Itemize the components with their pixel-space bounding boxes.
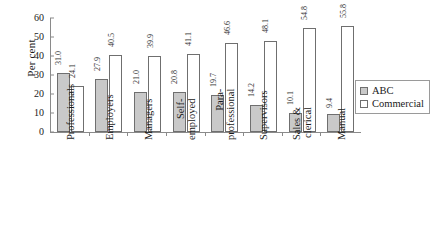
y-axis-ticks: 0102030405060 (26, 18, 50, 132)
x-axis-label-text: Supervisors (258, 90, 269, 140)
bar-value-label: 21.0 (133, 70, 141, 84)
x-axis-label-text: Para-professional (214, 89, 236, 140)
bar-value-label: 40.5 (108, 33, 116, 47)
x-axis-label-line1: Managers (143, 99, 154, 140)
chart-legend: ABC Commercial (355, 80, 430, 114)
y-tick-label-40: 40 (34, 51, 44, 61)
legend-swatch-abc (360, 87, 368, 95)
y-tick-label-60: 60 (34, 13, 44, 23)
x-axis-label-line2: clerical (302, 107, 313, 140)
x-axis-label-line1: Manual (336, 108, 347, 140)
y-tick-label-30: 30 (34, 70, 44, 80)
legend-item-commercial: Commercial (360, 97, 424, 110)
y-tick-label-0: 0 (39, 127, 44, 137)
x-axis-label-line2: employed (186, 99, 197, 140)
x-axis-label-line2: professional (225, 89, 236, 140)
bar-value-label: 20.8 (171, 70, 179, 84)
y-tick-label-20: 20 (34, 89, 44, 99)
x-axis-label-text: Managers (143, 99, 154, 140)
bar-value-label: 24.1 (69, 64, 77, 78)
x-axis-label: Supervisors (244, 136, 283, 242)
bar-value-label: 9.4 (326, 98, 334, 108)
bar-value-label: 54.8 (301, 6, 309, 20)
legend-label-abc: ABC (372, 84, 394, 97)
x-axis-label: Self-employed (167, 136, 206, 242)
x-axis-label-text: Employers (104, 95, 115, 141)
x-axis-label: Manual (321, 136, 360, 242)
bar-value-label: 55.8 (340, 4, 348, 18)
x-axis-label-line1: Para- (214, 89, 225, 140)
bar-groups: 31.024.127.940.521.039.920.841.119.746.6… (51, 18, 360, 132)
bar-value-label: 39.9 (147, 34, 155, 48)
bar-chart: Per cent 0102030405060 31.024.127.940.52… (0, 0, 441, 248)
x-axis-label: Sales &clerical (283, 136, 322, 242)
y-tick-label-50: 50 (34, 32, 44, 42)
x-axis-label-text: Manual (336, 108, 347, 140)
y-tick-label-10: 10 (34, 108, 44, 118)
x-axis-label: Employers (90, 136, 129, 242)
x-axis-label-text: Sales &clerical (291, 107, 313, 140)
x-axis-label-line1: Employers (104, 95, 115, 141)
x-axis-label-line1: Supervisors (258, 90, 269, 140)
legend-label-commercial: Commercial (372, 97, 424, 110)
x-axis-labels: ProfessionalsEmployersManagersSelf-emplo… (51, 136, 360, 242)
legend-swatch-commercial (360, 100, 368, 108)
x-axis-line (50, 132, 361, 133)
x-axis-label-text: Self-employed (175, 99, 197, 140)
x-axis-label-text: Professionals (65, 84, 76, 140)
bar-value-label: 46.6 (224, 21, 232, 35)
x-axis-label: Para-professional (206, 136, 245, 242)
bar-value-label: 27.9 (94, 57, 102, 71)
plot-area: 31.024.127.940.521.039.920.841.119.746.6… (50, 18, 360, 132)
bar-value-label: 41.1 (185, 32, 193, 46)
legend-item-abc: ABC (360, 84, 424, 97)
bar-value-label: 31.0 (55, 51, 63, 65)
x-axis-label-line1: Sales & (291, 107, 302, 140)
bar-value-label: 19.7 (210, 73, 218, 87)
bar-value-label: 14.2 (248, 83, 256, 97)
bar-value-label: 10.1 (287, 91, 295, 105)
x-axis-label-line1: Self- (175, 99, 186, 140)
x-axis-label: Managers (128, 136, 167, 242)
x-axis-label-line1: Professionals (65, 84, 76, 140)
bar-value-label: 48.1 (262, 19, 270, 33)
x-axis-label: Professionals (51, 136, 90, 242)
